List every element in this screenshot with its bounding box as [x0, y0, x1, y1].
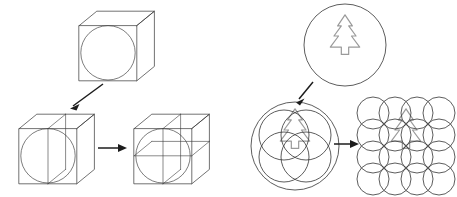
right-step-2 — [251, 102, 339, 190]
bounding-circle — [304, 4, 386, 86]
left-panel — [19, 11, 209, 184]
right-step-3 — [357, 97, 455, 195]
sub-circle — [281, 110, 331, 160]
sub-circle — [259, 110, 309, 160]
diagram-svg — [0, 0, 457, 197]
enclosing-circle — [251, 102, 339, 190]
tree-motif — [330, 15, 359, 55]
right-arrow-horizontal — [334, 140, 359, 148]
diagram-canvas: Hierarchical bounding volume subdivision… — [0, 0, 457, 197]
sub-circle — [259, 132, 309, 182]
left-step-1 — [79, 11, 154, 81]
circle-grid — [357, 97, 455, 195]
left-step-2 — [19, 114, 94, 184]
sub-circle — [281, 132, 331, 182]
left-arrow-horizontal — [98, 144, 127, 152]
tree-motif — [280, 109, 309, 149]
left-arrow-diagonal — [70, 84, 103, 111]
left-step-3 — [134, 114, 209, 184]
right-panel — [251, 4, 455, 195]
right-arrow-diagonal — [296, 82, 313, 106]
right-step-1 — [304, 4, 386, 86]
